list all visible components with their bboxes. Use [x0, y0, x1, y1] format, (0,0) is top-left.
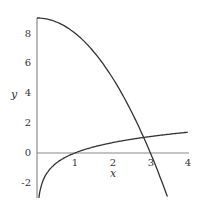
svg-text:2: 2 — [25, 117, 31, 128]
svg-text:0: 0 — [25, 147, 31, 158]
x-tick-labels: 1 2 3 4 — [72, 157, 191, 168]
curve-parabola — [37, 18, 167, 197]
svg-text:8: 8 — [25, 28, 31, 39]
svg-text:4: 4 — [185, 157, 191, 168]
svg-text:6: 6 — [25, 57, 31, 68]
y-axis-label: y — [10, 88, 18, 101]
svg-text:4: 4 — [25, 87, 31, 98]
x-axis-label: x — [110, 167, 117, 180]
svg-text:1: 1 — [72, 157, 78, 168]
svg-text:-2: -2 — [21, 177, 31, 188]
chart: -2 0 2 4 6 8 1 2 3 4 x y — [0, 0, 199, 213]
y-tick-labels: -2 0 2 4 6 8 — [21, 28, 31, 188]
